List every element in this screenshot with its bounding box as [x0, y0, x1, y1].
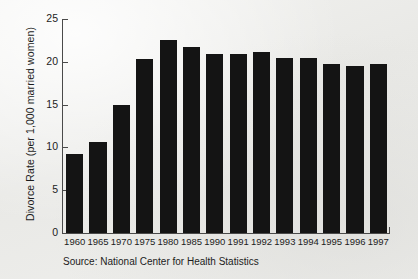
y-axis-tick-label-text: 20: [18, 56, 58, 67]
bar: [346, 66, 363, 233]
bar: [370, 64, 387, 233]
chart-page: Divorce Rate (per 1,000 married women) 0…: [0, 0, 418, 279]
y-axis-tick-label-text: 25: [18, 13, 58, 24]
x-axis-tick-label: 1997: [365, 236, 392, 248]
bar: [253, 52, 270, 233]
bar: [113, 105, 130, 233]
bar: [160, 40, 177, 233]
bar: [206, 54, 223, 233]
y-axis-tick-label-text: 5: [18, 184, 58, 195]
bar-slot: [370, 19, 387, 233]
y-axis-tick-label: 10: [14, 141, 58, 153]
bar: [136, 59, 153, 233]
bar: [66, 154, 83, 233]
bar-slot: [206, 19, 223, 233]
x-axis-line: [62, 233, 390, 234]
y-axis-tick-label: 5: [14, 184, 58, 196]
bar-slot: [253, 19, 270, 233]
y-axis-title: Divorce Rate (per 1,000 married women): [24, 14, 36, 234]
y-axis-tick-label: 15: [14, 99, 58, 111]
y-axis-tick-label-text: 15: [18, 99, 58, 110]
y-axis-tick-label-text: 0: [18, 227, 58, 238]
x-axis-tick-labels: 1960196519701975198019851990199119921993…: [63, 236, 390, 250]
y-axis-tick-label-text: 10: [18, 141, 58, 152]
bar-slot: [183, 19, 200, 233]
bar: [276, 58, 293, 233]
bar-slot: [230, 19, 247, 233]
bar: [230, 54, 247, 233]
bar-slot: [300, 19, 317, 233]
bar-slot: [89, 19, 106, 233]
bar-slot: [136, 19, 153, 233]
source-note: Source: National Center for Health Stati…: [63, 256, 259, 267]
bar-series: [63, 19, 390, 233]
y-axis-tick: [63, 233, 68, 234]
bar-slot: [346, 19, 363, 233]
bar-slot: [66, 19, 83, 233]
bar-slot: [160, 19, 177, 233]
y-axis-tick-label: 0: [14, 227, 58, 239]
bar: [89, 142, 106, 233]
bar-slot: [276, 19, 293, 233]
bar-chart: Divorce Rate (per 1,000 married women) 0…: [0, 0, 418, 279]
y-axis-tick-label: 25: [14, 13, 58, 25]
y-axis-tick-label: 20: [14, 56, 58, 68]
bar-slot: [323, 19, 340, 233]
bar: [323, 64, 340, 233]
bar: [300, 58, 317, 233]
bar-slot: [113, 19, 130, 233]
bar: [183, 47, 200, 233]
